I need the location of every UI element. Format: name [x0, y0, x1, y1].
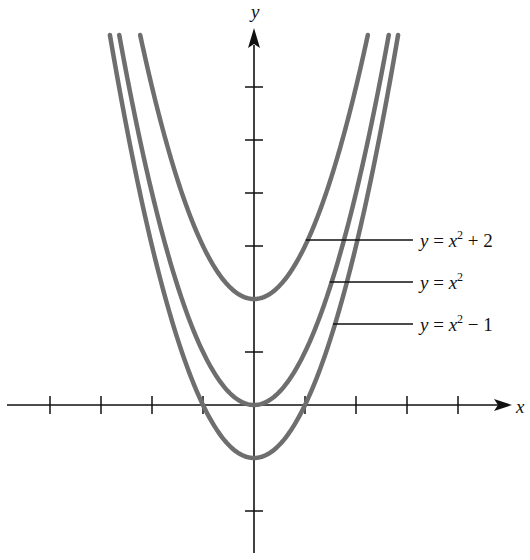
- parabola-chart: y = x2 + 2y = x2y = x2 − 1 x y: [0, 0, 530, 560]
- curve-labels: y = x2 + 2y = x2y = x2 − 1: [306, 228, 493, 335]
- y-axis-label: y: [249, 1, 260, 22]
- curve-label: y = x2 + 2: [418, 228, 493, 251]
- curve-label: y = x2: [418, 270, 463, 293]
- curve-label: y = x2 − 1: [418, 312, 493, 335]
- x-axis-label: x: [515, 396, 525, 417]
